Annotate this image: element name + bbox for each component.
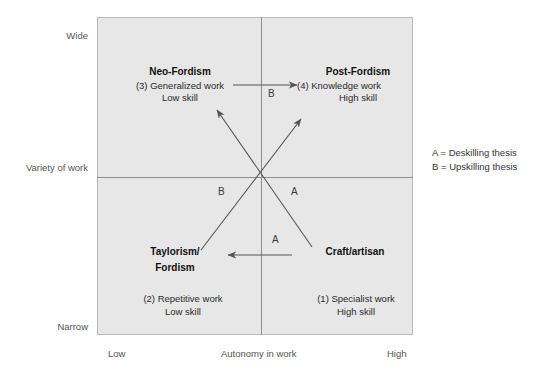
quadrant-taylorism-fordism-title: Taylorism/ Fordism	[125, 245, 225, 275]
arrow-label-top-b: B	[268, 88, 275, 99]
quadrant-craft-line2: High skill	[337, 306, 375, 317]
quadrant-craft-line1: (1) Specialist work	[317, 293, 395, 304]
quadrant-neo-fordism: Neo-Fordism (3) Generalized work Low ski…	[110, 65, 250, 105]
horizontal-axis-divider	[97, 177, 413, 178]
quadrant-taylorism-title-line1: Taylorism/	[125, 245, 225, 259]
legend-item-upskilling: B = Upskilling thesis	[432, 160, 517, 174]
quadrant-taylorism-line2: Low skill	[165, 306, 201, 317]
axis-tick-narrow: Narrow	[4, 322, 88, 332]
quadrant-taylorism-line1: (2) Repetitive work	[143, 293, 222, 304]
quadrant-post-fordism-title: Post-Fordism	[297, 65, 419, 79]
arrow-label-bottom-a: A	[272, 234, 279, 245]
quadrant-craft-artisan-title: Craft/artisan	[300, 245, 410, 260]
axis-label-autonomy-in-work: Autonomy in work	[221, 349, 297, 359]
quadrant-neo-fordism-line2: Low skill	[162, 92, 198, 103]
quadrant-repetitive-work-note: (2) Repetitive work Low skill	[118, 293, 248, 319]
quadrant-craft-title: Craft/artisan	[300, 245, 410, 259]
quadrant-neo-fordism-line1: (3) Generalized work	[136, 80, 224, 91]
legend: A = Deskilling thesis B = Upskilling the…	[432, 146, 517, 175]
quadrant-post-fordism-line1: (4) Knowledge work	[297, 80, 381, 91]
quadrant-taylorism-title-line2: Fordism	[125, 261, 225, 275]
legend-item-deskilling: A = Deskilling thesis	[432, 146, 517, 160]
vertical-axis-divider	[261, 17, 262, 335]
axis-label-variety-of-work: Variety of work	[4, 163, 88, 173]
axis-tick-wide: Wide	[4, 31, 88, 41]
quadrant-neo-fordism-title: Neo-Fordism	[110, 65, 250, 79]
axis-tick-low: Low	[108, 349, 125, 359]
quadrant-post-fordism: Post-Fordism (4) Knowledge work High ski…	[297, 65, 427, 105]
arrow-label-diagonal-a: A	[291, 186, 298, 197]
quadrant-post-fordism-line2: High skill	[297, 92, 419, 105]
axis-tick-high: High	[387, 349, 407, 359]
arrow-label-diagonal-b: B	[218, 186, 225, 197]
quadrant-specialist-work-note: (1) Specialist work High skill	[296, 293, 416, 319]
diagram-canvas: Wide Variety of work Narrow Low Autonomy…	[0, 0, 546, 370]
